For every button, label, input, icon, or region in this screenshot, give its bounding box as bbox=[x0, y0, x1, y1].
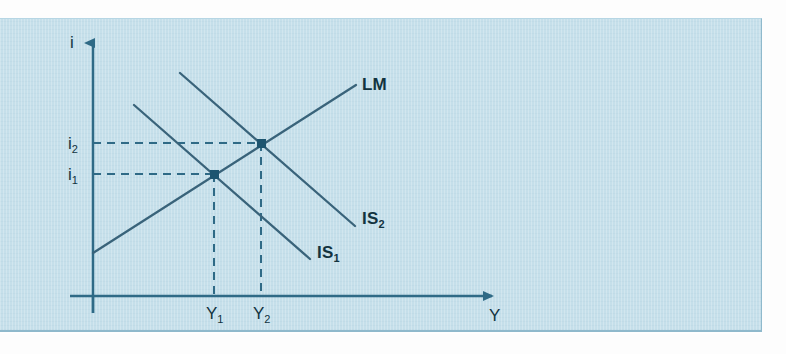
tick-label-y1-base: Y bbox=[206, 304, 217, 323]
curves-group bbox=[93, 73, 356, 259]
tick-label-i1: i1 bbox=[68, 165, 78, 186]
tick-label-i2-subscript: 2 bbox=[72, 143, 78, 155]
tick-label-y1: Y1 bbox=[206, 304, 223, 325]
guide-lines-group bbox=[93, 143, 261, 296]
page-margin-right bbox=[762, 0, 786, 354]
tick-label-i2: i2 bbox=[68, 134, 78, 155]
tick-label-y2-base: Y bbox=[253, 304, 264, 323]
tick-label-y2: Y2 bbox=[253, 304, 270, 325]
curve-label-lm-base: LM bbox=[362, 75, 387, 94]
curve-lm[interactable] bbox=[93, 85, 356, 253]
curve-label-is2-base: IS bbox=[362, 209, 378, 228]
equilibrium-points-group bbox=[210, 139, 266, 179]
curve-label-is1-base: IS bbox=[317, 243, 333, 262]
axes-group bbox=[70, 43, 492, 313]
curve-is2[interactable] bbox=[180, 73, 355, 226]
page-margin-top bbox=[0, 0, 786, 18]
equilibrium-point-e2[interactable] bbox=[257, 139, 266, 148]
curve-label-is1: IS1 bbox=[317, 243, 340, 264]
curve-label-lm: LM bbox=[362, 75, 387, 94]
curve-label-is1-subscript: 1 bbox=[333, 252, 339, 264]
tick-label-y1-subscript: 1 bbox=[217, 313, 223, 325]
x-axis-label: Y bbox=[489, 306, 500, 325]
tick-label-i1-subscript: 1 bbox=[72, 174, 78, 186]
y-axis-label: i bbox=[70, 33, 74, 52]
islm-chart: i Y i2 i1 Y1 Y2 LM IS2 IS1 bbox=[0, 18, 762, 332]
equilibrium-point-e1[interactable] bbox=[210, 170, 219, 179]
tick-label-y2-subscript: 2 bbox=[264, 313, 270, 325]
labels-group: i Y i2 i1 Y1 Y2 LM IS2 IS1 bbox=[68, 33, 500, 325]
page-margin-bottom bbox=[0, 334, 786, 354]
curve-label-is2: IS2 bbox=[362, 209, 385, 230]
curve-is1[interactable] bbox=[134, 105, 310, 259]
curve-label-is2-subscript: 2 bbox=[378, 218, 384, 230]
islm-figure: i Y i2 i1 Y1 Y2 LM IS2 IS1 bbox=[0, 0, 786, 354]
